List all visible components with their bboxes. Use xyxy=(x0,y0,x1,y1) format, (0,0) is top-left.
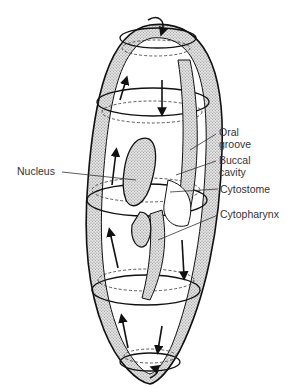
label-buccal-cavity-line2: cavity xyxy=(219,167,246,178)
label-oral-groove-line1: Oral xyxy=(219,127,239,138)
label-cytostome: Cytostome xyxy=(220,184,270,195)
label-cytopharynx: Cytopharynx xyxy=(220,209,279,220)
cell-body xyxy=(86,24,222,384)
label-nucleus: Nucleus xyxy=(17,166,55,177)
label-oral-groove-line2: groove xyxy=(219,139,251,150)
label-buccal-cavity-line1: Buccal xyxy=(219,155,251,166)
